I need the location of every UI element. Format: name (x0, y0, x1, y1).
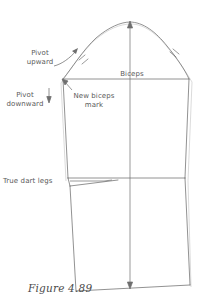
upper-right-seam (185, 79, 189, 178)
figure-caption: Figure 4.89 (28, 282, 92, 294)
label-pivot-upward: Pivot upward (18, 49, 62, 67)
cap-notch-tick-icon-group (79, 49, 179, 64)
grainline-double-headed-arrow-icon (127, 21, 132, 289)
notch-tick-right-a (170, 52, 176, 57)
leader-line-icon (70, 180, 112, 181)
label-new-biceps-mark: New biceps mark (63, 92, 125, 110)
sleeve-pattern-drawing (0, 0, 210, 308)
notch-tick-right-b (173, 49, 179, 54)
hem-line (76, 285, 190, 291)
pivot-up-arrowhead (72, 48, 78, 54)
pattern-outline-group (63, 22, 190, 291)
label-biceps: Biceps (112, 70, 152, 79)
notch-tick-left-a (79, 55, 85, 60)
label-pivot-downward: Pivot downward (2, 91, 48, 109)
guide-outline-group (61, 24, 192, 287)
figure-page: Pivot upward Pivot downward New biceps m… (0, 0, 210, 308)
dart-leg-lower (70, 186, 76, 291)
label-true-dart-legs: True dart legs (3, 177, 73, 186)
notch-tick-left-b (82, 59, 88, 64)
